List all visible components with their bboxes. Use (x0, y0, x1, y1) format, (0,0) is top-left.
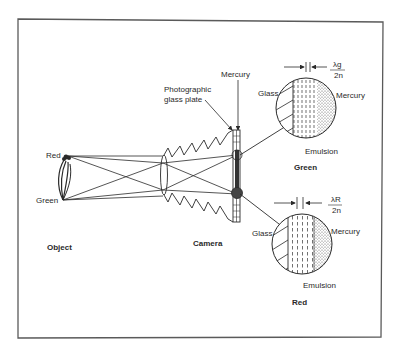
plate-label-line1: Photographic (164, 85, 211, 94)
photographic-plate (232, 130, 243, 222)
camera-lens (161, 155, 168, 195)
plate-pointer (205, 100, 232, 130)
green-point-label: Green (36, 196, 58, 205)
plate-label-line2: glass plate (164, 95, 203, 104)
green-glass-label: Glass (258, 89, 278, 98)
light-rays (63, 155, 237, 200)
red-spacing-denominator: 2n (332, 206, 341, 215)
green-spacing-denominator: 2n (334, 71, 343, 80)
lippmann-diagram: Red Green Object Camera Mercury Photogra… (0, 0, 400, 356)
red-inset-connector (240, 194, 279, 224)
red-emulsion-label: Emulsion (303, 281, 336, 290)
green-inset-connector (240, 128, 283, 155)
red-spacing-numerator: λR (331, 195, 341, 204)
camera-bellows (164, 130, 233, 222)
red-point-label: Red (46, 151, 61, 160)
red-glass-label: Glass (252, 229, 272, 238)
red-caption: Red (292, 298, 307, 307)
object-flower-icon (59, 155, 71, 201)
green-spacing-numerator: λg (333, 60, 341, 69)
green-caption: Green (294, 163, 317, 172)
camera-label: Camera (193, 239, 223, 248)
mercury-label: Mercury (221, 70, 250, 79)
red-mercury-label: Mercury (331, 227, 360, 236)
green-mercury-label: Mercury (336, 91, 365, 100)
object-label: Object (47, 243, 72, 252)
green-emulsion-label: Emulsion (305, 147, 338, 156)
